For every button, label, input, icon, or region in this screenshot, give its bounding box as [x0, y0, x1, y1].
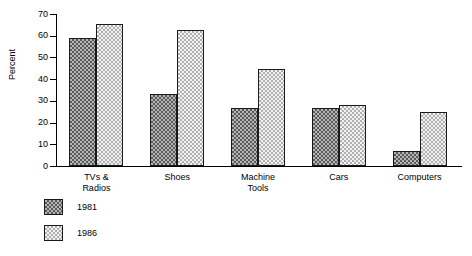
bar [339, 105, 366, 166]
bar [69, 38, 96, 166]
bar [231, 108, 258, 166]
y-axis-tick-label: 40 [0, 75, 55, 84]
bar [177, 30, 204, 166]
y-axis-tick-label: 30 [0, 96, 55, 105]
bar [312, 108, 339, 166]
legend-label: 1981 [77, 203, 97, 212]
y-axis-title: Percent [8, 35, 17, 95]
y-axis-tick-label: 60 [0, 31, 55, 40]
bar [258, 69, 285, 166]
legend-swatch [44, 199, 63, 215]
x-axis-line [56, 166, 462, 167]
bar [420, 112, 447, 166]
legend-swatch [44, 225, 63, 241]
y-axis-tick-label: 20 [0, 118, 55, 127]
bar [96, 24, 123, 166]
legend-label: 1986 [77, 229, 97, 238]
y-axis-tick-label: 50 [0, 53, 55, 62]
bar-chart: Percent 010203040506070 TVs & RadiosShoe… [0, 0, 472, 256]
plot-area [56, 14, 460, 166]
bar [150, 94, 177, 166]
x-axis-category-label: Computers [372, 172, 468, 183]
y-axis-tick-label: 70 [0, 10, 55, 19]
bar [393, 151, 420, 166]
y-axis-tick-label: 10 [0, 140, 55, 149]
y-axis-tick-label: 0 [0, 162, 55, 171]
